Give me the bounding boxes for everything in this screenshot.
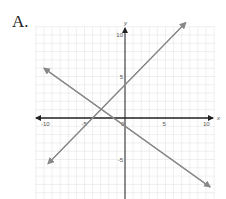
y-tick-label: 10: [116, 32, 123, 38]
coordinate-plane: xy-10-50510105-5-10: [0, 0, 226, 199]
y-tick-label: -5: [118, 157, 124, 163]
x-tick-label: 10: [203, 121, 210, 127]
x-tick-label: -10: [41, 121, 50, 127]
x-axis-label: x: [216, 115, 221, 121]
y-tick-label: -10: [114, 198, 123, 199]
y-axis-label: y: [123, 20, 128, 26]
